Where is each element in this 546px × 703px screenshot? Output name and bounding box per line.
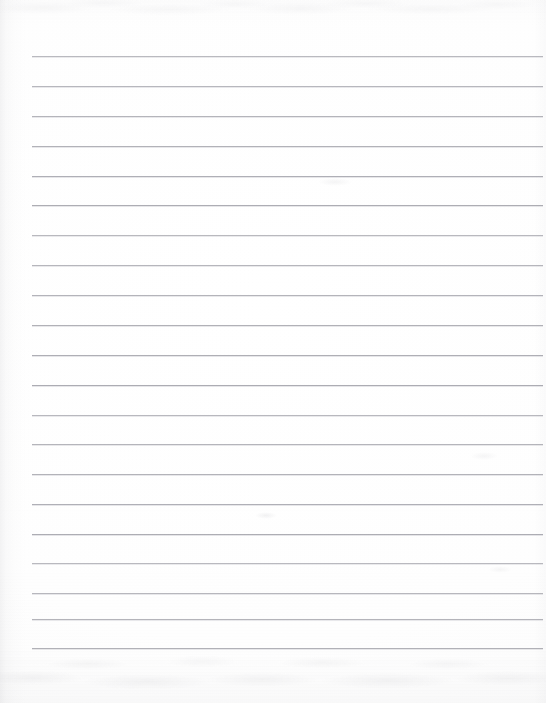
rule-line [32, 86, 543, 87]
rule-line [32, 116, 543, 117]
rule-line [32, 474, 543, 475]
rule-line [32, 504, 543, 505]
rule-line [32, 176, 543, 177]
rule-line [32, 444, 543, 445]
rule-line [32, 355, 543, 356]
rule-line [32, 146, 543, 147]
rule-line [32, 385, 543, 386]
rule-line [32, 56, 543, 57]
rule-line [32, 205, 543, 206]
rule-line [32, 534, 543, 535]
rule-line [32, 593, 543, 594]
rule-line [32, 325, 543, 326]
rule-line [32, 295, 543, 296]
rule-line [32, 648, 543, 649]
rule-line [32, 235, 543, 236]
rule-line [32, 619, 543, 620]
rule-line [32, 563, 543, 564]
rule-line [32, 415, 543, 416]
scanned-page [0, 0, 546, 703]
rule-line [32, 265, 543, 266]
ruled-lines-group [0, 0, 546, 703]
